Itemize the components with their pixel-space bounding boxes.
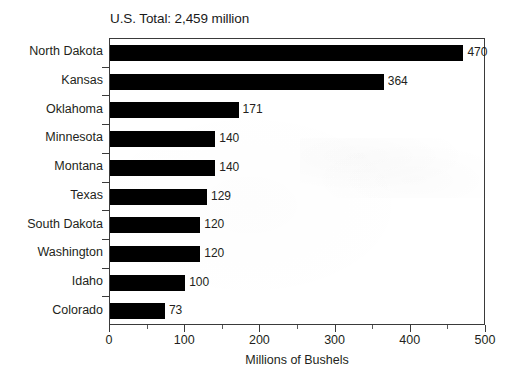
x-axis-tick-major — [259, 325, 260, 332]
bar-value-label: 73 — [169, 302, 182, 319]
bar — [110, 246, 200, 262]
y-axis-tick-label: Washington — [0, 245, 103, 260]
y-axis-tick-mark — [102, 296, 109, 297]
y-axis-tick-label: Colorado — [0, 303, 103, 318]
y-axis-tick-mark — [102, 182, 109, 183]
y-axis-tick-mark — [102, 67, 109, 68]
bar-row: 120 — [110, 211, 484, 240]
bar-value-label: 100 — [189, 274, 209, 291]
bar-value-label: 120 — [204, 245, 224, 262]
y-axis-tick-label: North Dakota — [0, 44, 103, 59]
chart-title: U.S. Total: 2,459 million — [110, 11, 249, 26]
x-axis-tick-minor — [297, 325, 298, 329]
x-axis-tick-minor — [147, 325, 148, 329]
bar-row: 73 — [110, 297, 484, 326]
x-axis-tick-label: 100 — [174, 333, 195, 347]
bar-row: 140 — [110, 154, 484, 183]
x-axis-tick-major — [485, 325, 486, 332]
x-axis-tick-major — [184, 325, 185, 332]
bar-value-label: 140 — [219, 130, 239, 147]
bar — [110, 74, 384, 90]
bar-value-label: 140 — [219, 159, 239, 176]
bar-chart: U.S. Total: 2,459 million North DakotaKa… — [0, 0, 513, 384]
y-axis-tick-label: Texas — [0, 188, 103, 203]
bar — [110, 131, 215, 147]
y-axis-labels: North DakotaKansasOklahomaMinnesotaMonta… — [0, 38, 103, 325]
x-axis-tick-label: 300 — [324, 333, 345, 347]
bar-row: 129 — [110, 183, 484, 212]
bar-value-label: 364 — [388, 73, 408, 90]
plot-area: 47036417114014012912012010073 — [109, 38, 485, 325]
bar — [110, 45, 463, 61]
bar-value-label: 120 — [204, 216, 224, 233]
y-axis-tick-label: Idaho — [0, 274, 103, 289]
y-axis-tick-mark — [102, 268, 109, 269]
y-axis-tick-mark — [102, 153, 109, 154]
bar-value-label: 171 — [243, 101, 263, 118]
y-axis-tick-label: South Dakota — [0, 217, 103, 232]
y-axis-tick-label: Kansas — [0, 73, 103, 88]
bar — [110, 303, 165, 319]
x-axis-tick-label: 0 — [106, 333, 113, 347]
bar — [110, 189, 207, 205]
x-axis-tick-minor — [447, 325, 448, 329]
x-axis-tick-label: 400 — [399, 333, 420, 347]
y-axis-tick-label: Oklahoma — [0, 102, 103, 117]
bar-row: 140 — [110, 125, 484, 154]
bar-row: 100 — [110, 269, 484, 298]
bar-value-label: 129 — [211, 188, 231, 205]
y-axis-tick-label: Minnesota — [0, 130, 103, 145]
bar-row: 120 — [110, 240, 484, 269]
bar — [110, 102, 239, 118]
bar — [110, 275, 185, 291]
bar-row: 364 — [110, 68, 484, 97]
bar — [110, 160, 215, 176]
x-axis-tick-label: 500 — [475, 333, 496, 347]
bar — [110, 217, 200, 233]
y-axis-tick-mark — [102, 124, 109, 125]
x-axis-tick-minor — [372, 325, 373, 329]
y-axis-tick-mark — [102, 95, 109, 96]
y-axis-tick-label: Montana — [0, 159, 103, 174]
x-axis-tick-label: 200 — [249, 333, 270, 347]
x-axis-tick-major — [410, 325, 411, 332]
bar-row: 470 — [110, 39, 484, 68]
y-axis-tick-mark — [102, 210, 109, 211]
x-axis-tick-major — [335, 325, 336, 332]
x-axis-title: Millions of Bushels — [109, 353, 485, 367]
y-axis-tick-mark — [102, 239, 109, 240]
bar-value-label: 470 — [467, 44, 487, 61]
x-axis-tick-major — [109, 325, 110, 332]
x-axis-tick-minor — [222, 325, 223, 329]
bar-row: 171 — [110, 96, 484, 125]
